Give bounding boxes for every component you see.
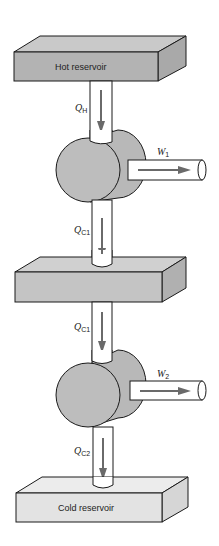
engine-1: W1 [56,130,206,202]
flow-label-qh: QH [75,102,87,114]
hot-reservoir-label: Hot reservoir [55,62,107,72]
heat-engine-diagram: Hot reservoir QH W1 QC1 [0,0,219,546]
cold-reservoir: Cold reservoir [16,477,188,522]
flow-label-qc1-upper: QC1 [74,224,90,236]
engine-2: W2 [56,350,206,427]
middle-reservoir [15,250,186,302]
flow-label-qc1-lower: QC1 [74,321,90,333]
flow-label-qc2: QC2 [74,445,90,457]
work-label-w1: W1 [157,146,169,158]
hot-reservoir: Hot reservoir [14,36,186,81]
cold-reservoir-label: Cold reservoir [58,503,114,513]
work-label-w2: W2 [157,368,169,380]
